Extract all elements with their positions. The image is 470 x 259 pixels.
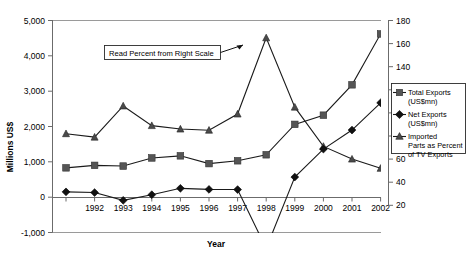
x-tick-label: 2001 (343, 203, 362, 213)
annotation-read-percent: Read Percent from Right Scale (105, 45, 244, 60)
legend-label-sub: (US$mn) (408, 119, 438, 128)
chart-container: 5,000 4,000 3,000 2,000 1,000 0 -1,000 M… (0, 0, 470, 259)
right-tick-label: 140 (396, 62, 410, 72)
left-tick-label: 3,000 (24, 86, 46, 96)
left-tick-label: 5,000 (24, 16, 46, 26)
x-axis-tick-labels: 1992 1993 1994 1995 1996 1997 1998 1999 … (85, 203, 390, 213)
x-axis-title: Year (207, 239, 226, 249)
legend-label-sub: Parts as Percent (408, 141, 463, 150)
x-tick-label: 1995 (171, 203, 190, 213)
x-tick-label: 1998 (257, 203, 276, 213)
right-tick-label: 20 (396, 200, 406, 210)
left-tick-label: 1,000 (24, 157, 46, 167)
annotation-label: Read Percent from Right Scale (109, 49, 214, 58)
series-line-net-exports (66, 103, 381, 249)
legend-label: Net Exports (408, 110, 447, 119)
x-tick-label: 1994 (142, 203, 161, 213)
chart-svg: 5,000 4,000 3,000 2,000 1,000 0 -1,000 M… (0, 0, 470, 259)
right-tick-label: 160 (396, 39, 410, 49)
series-layer (62, 31, 384, 249)
left-axis-ticks (48, 21, 53, 233)
right-tick-label: 40 (396, 177, 406, 187)
legend-label-sub2: of TV Exports (408, 150, 453, 159)
right-tick-label: 180 (396, 16, 410, 26)
left-tick-label: 2,000 (24, 122, 46, 132)
left-tick-label: 0 (40, 192, 45, 202)
legend-label: Total Exports (408, 88, 451, 97)
left-tick-label: 4,000 (24, 51, 46, 61)
y-axis-title: Millions US$ (5, 121, 15, 172)
x-tick-label: 1992 (85, 203, 104, 213)
right-tick-label: 60 (396, 154, 406, 164)
x-tick-label: 1996 (200, 203, 219, 213)
x-tick-label: 1999 (285, 203, 304, 213)
legend-label: Imported (408, 132, 437, 141)
legend: Total Exports (US$mn) Net Exports (US$mn… (392, 84, 466, 160)
left-tick-label: -1,000 (21, 228, 45, 238)
left-axis-tick-labels: 5,000 4,000 3,000 2,000 1,000 0 -1,000 (21, 16, 45, 238)
x-tick-label: 2000 (314, 203, 333, 213)
legend-label-sub: (US$mn) (408, 97, 438, 106)
x-tick-label: 2002 (371, 203, 390, 213)
